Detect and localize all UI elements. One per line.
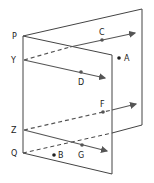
front-plane <box>23 36 112 174</box>
line-ZF <box>24 104 136 130</box>
point-B-dot <box>52 153 56 157</box>
plane-diagram: P Y Z Q C D F G A B <box>0 0 154 183</box>
label-F: F <box>100 100 105 109</box>
label-D: D <box>78 78 84 87</box>
label-Z: Z <box>11 126 17 135</box>
label-B: B <box>58 151 64 160</box>
label-Y: Y <box>10 56 16 65</box>
label-P: P <box>12 32 17 41</box>
line-YC <box>24 33 135 60</box>
line-ZG <box>24 130 107 151</box>
label-G: G <box>78 151 84 160</box>
label-Q: Q <box>11 149 17 158</box>
point-A-dot <box>117 56 121 60</box>
label-A: A <box>124 54 130 63</box>
label-C: C <box>99 28 105 37</box>
line-YD <box>24 60 105 78</box>
